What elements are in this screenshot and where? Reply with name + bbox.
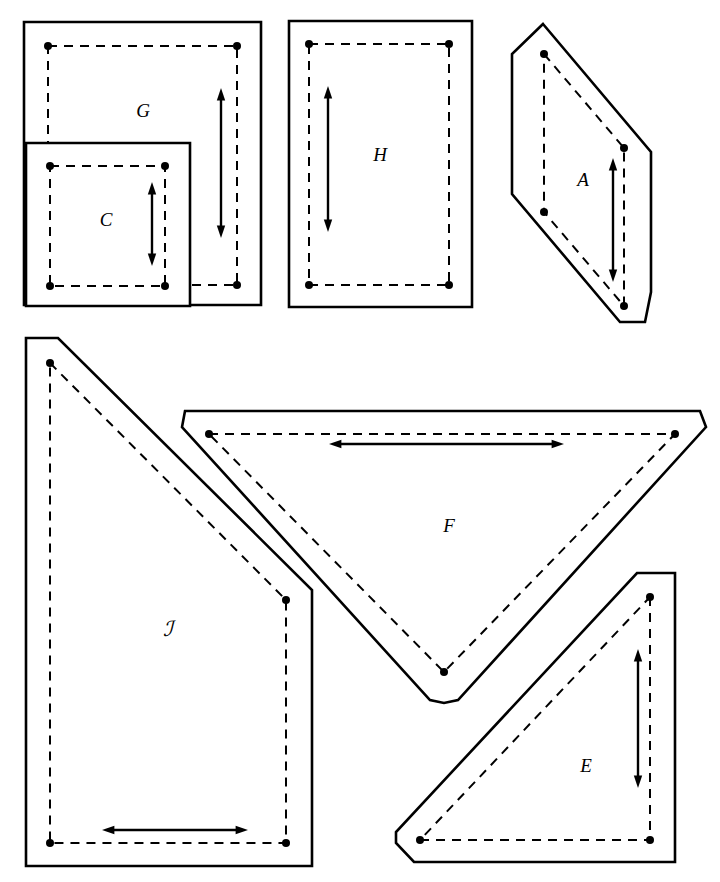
corner-dot [540,208,548,216]
corner-dot [46,839,54,847]
corner-dot [205,430,213,438]
corner-dot [161,162,169,170]
corner-dot [445,40,453,48]
piece-c: C [26,143,190,306]
piece-h: H [289,21,472,307]
corner-dot [233,281,241,289]
corner-dot [282,596,290,604]
piece-label-a: A [575,169,589,190]
pattern-pieces-diagram: GCHAℐFE [0,0,720,882]
corner-dot [416,836,424,844]
corner-dot [46,359,54,367]
corner-dot [233,42,241,50]
figure-root: GCHAℐFE [0,0,720,882]
piece-label-h: H [372,144,388,165]
corner-dot [282,839,290,847]
corner-dot [44,42,52,50]
corner-dot [445,281,453,289]
corner-dot [305,40,313,48]
corner-dot [161,282,169,290]
corner-dot [305,281,313,289]
corner-dot [46,282,54,290]
corner-dot [620,144,628,152]
piece-label-e: E [579,755,592,776]
piece-label-g: G [136,100,150,121]
corner-dot [440,668,448,676]
corner-dot [46,162,54,170]
corner-dot [540,50,548,58]
piece-label-f: F [442,515,455,536]
piece-label-c: C [100,209,113,230]
corner-dot [646,593,654,601]
corner-dot [620,302,628,310]
corner-dot [646,836,654,844]
corner-dot [671,430,679,438]
